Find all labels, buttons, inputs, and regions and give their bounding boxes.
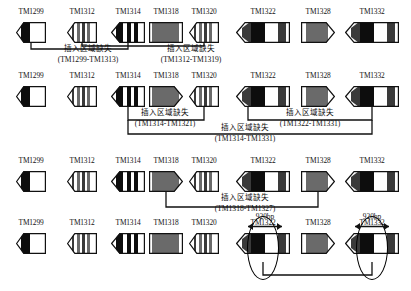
gene-fill (301, 233, 335, 254)
gene-glyph-tm1332 (345, 86, 399, 107)
gene-segment (179, 233, 183, 254)
gene-fill (345, 22, 399, 43)
gene-glyph-tm1322 (236, 171, 290, 192)
gene-segment (306, 171, 327, 192)
gene-segment (138, 22, 145, 43)
gene-segment (30, 171, 46, 192)
gene-segment (360, 86, 374, 107)
deletion-caption-cn: 插入区域缺失 (105, 108, 225, 119)
gene-fill (111, 233, 145, 254)
gene-segment (21, 171, 30, 192)
deletion-caption-cn: 插入区域缺失 (131, 44, 251, 55)
gene-segment (328, 22, 335, 43)
gene-segment (278, 171, 286, 192)
gene-segment (395, 171, 399, 192)
gene-segment (30, 233, 46, 254)
deletion-caption: 插入区域缺失(TM1299-TM1313) (28, 44, 148, 65)
gene-label-tm1328: TM1328 (288, 156, 348, 165)
gene-segment (351, 22, 360, 43)
gene-label-tm1328: TM1328 (288, 7, 348, 16)
gene-segment (242, 22, 251, 43)
gene-label-tm1332: TM1332 (342, 71, 402, 80)
gene-glyph-tm1332 (345, 22, 399, 43)
gene-segment (179, 86, 183, 107)
gene-segment (278, 233, 286, 254)
gene-label-tm1328: TM1328 (288, 71, 348, 80)
gene-segment (251, 86, 265, 107)
gene-segment (179, 171, 183, 192)
gene-segment (265, 171, 278, 192)
measure-920bp-left-arrow (244, 222, 286, 231)
gene-fill (149, 233, 183, 254)
gene-segment (116, 22, 123, 43)
gene-glyph-tm1314 (111, 86, 145, 107)
gene-fill (16, 86, 46, 107)
gene-fill (301, 22, 335, 43)
gene-glyph-tm1328 (301, 233, 335, 254)
deletion-caption-range: (TM1312-TM1319) (131, 55, 251, 66)
gene-glyph-tm1320 (189, 86, 219, 107)
gene-fill (345, 86, 399, 107)
gene-glyph-tm1320 (189, 171, 219, 192)
gene-fill (189, 233, 219, 254)
gene-fill (149, 171, 183, 192)
measure-label-920bp: 920bp (342, 212, 402, 221)
gene-segment (306, 86, 327, 107)
gene-glyph-tm1312 (67, 22, 97, 43)
gene-segment (212, 233, 219, 254)
gene-segment (242, 171, 251, 192)
gene-segment (152, 171, 179, 192)
gene-fill (16, 171, 46, 192)
gene-segment (306, 22, 327, 43)
deletion-caption: 插入区域缺失(TM1318-TM1327) (185, 193, 305, 214)
gene-label-tm1322: TM1322 (233, 156, 293, 165)
gene-glyph-tm1314 (111, 171, 145, 192)
gene-glyph-tm1312 (67, 171, 97, 192)
gene-segment (138, 86, 145, 107)
gene-label-tm1320: TM1320 (174, 156, 234, 165)
gene-segment (251, 171, 265, 192)
gene-glyph-tm1299 (16, 233, 46, 254)
gene-segment (152, 233, 179, 254)
gene-glyph-tm1322 (236, 22, 290, 43)
gene-segment (286, 171, 290, 192)
gene-segment (351, 171, 360, 192)
gene-segment (30, 86, 46, 107)
gene-segment (387, 22, 395, 43)
gene-glyph-tm1312 (67, 233, 97, 254)
gene-glyph-tm1328 (301, 171, 335, 192)
deletion-caption-cn: 插入区域缺失 (28, 44, 148, 55)
gene-glyph-tm1328 (301, 86, 335, 107)
gene-segment (360, 22, 374, 43)
gene-segment (21, 86, 30, 107)
gene-fill (67, 22, 97, 43)
gene-segment (90, 86, 97, 107)
gene-fill (236, 22, 290, 43)
gene-segment (21, 233, 30, 254)
gene-segment (251, 22, 265, 43)
deletion-caption-range: (TM1299-TM1313) (28, 55, 148, 66)
gene-fill (111, 86, 145, 107)
gene-segment (286, 22, 290, 43)
gene-fill (236, 86, 290, 107)
gene-segment (395, 86, 399, 107)
gene-label-tm1328: TM1328 (288, 218, 348, 227)
gene-glyph-tm1318 (149, 233, 183, 254)
gene-segment (179, 22, 183, 43)
gene-segment (138, 171, 145, 192)
gene-segment (395, 22, 399, 43)
gene-segment (286, 233, 290, 254)
gene-fill (189, 171, 219, 192)
gene-segment (242, 86, 251, 107)
gene-segment (138, 233, 145, 254)
gene-glyph-tm1314 (111, 233, 145, 254)
gene-segment (116, 233, 123, 254)
gene-glyph-tm1328 (301, 22, 335, 43)
gene-segment (90, 171, 97, 192)
gene-segment (212, 171, 219, 192)
gene-glyph-tm1318 (149, 22, 183, 43)
gene-segment (374, 171, 387, 192)
gene-glyph-tm1299 (16, 86, 46, 107)
gene-label-tm1332: TM1332 (342, 7, 402, 16)
gene-fill (111, 171, 145, 192)
